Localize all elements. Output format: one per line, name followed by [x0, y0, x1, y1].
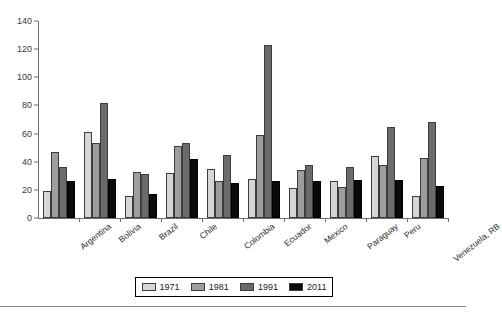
- bar[interactable]: [305, 165, 313, 218]
- bar-group: [325, 21, 366, 218]
- bar-group: [366, 21, 407, 218]
- bar[interactable]: [92, 143, 100, 218]
- bar[interactable]: [436, 186, 444, 218]
- bar[interactable]: [428, 122, 436, 218]
- bar[interactable]: [248, 179, 256, 218]
- chart-legend: 1971198119912011: [135, 277, 333, 297]
- bar[interactable]: [231, 183, 239, 218]
- legend-label: 2011: [307, 283, 326, 292]
- bar-group: [120, 21, 161, 218]
- bar[interactable]: [223, 155, 231, 218]
- bar[interactable]: [125, 196, 133, 219]
- x-axis-category-label: Chile: [198, 222, 219, 241]
- x-axis-category-label: Argentina: [79, 222, 113, 251]
- legend-label: 1981: [209, 283, 229, 292]
- x-axis-category-label: Ecuador: [283, 222, 313, 248]
- bar[interactable]: [100, 103, 108, 218]
- bar[interactable]: [108, 179, 116, 218]
- legend-swatch: [289, 283, 303, 291]
- bar-group: [38, 21, 79, 218]
- legend-item[interactable]: 1971: [142, 283, 180, 292]
- bar[interactable]: [264, 45, 272, 218]
- x-axis-tick-mark: [407, 218, 408, 222]
- bar[interactable]: [297, 170, 305, 218]
- x-axis-tick-mark: [325, 218, 326, 222]
- bar[interactable]: [84, 132, 92, 218]
- bar[interactable]: [133, 172, 141, 218]
- bar[interactable]: [346, 167, 354, 218]
- bar[interactable]: [149, 194, 157, 218]
- x-axis-tick-mark: [284, 218, 285, 222]
- bar[interactable]: [43, 191, 51, 218]
- bar[interactable]: [338, 187, 346, 218]
- bar[interactable]: [354, 180, 362, 218]
- legend-swatch: [191, 283, 205, 291]
- legend-label: 1991: [258, 283, 278, 292]
- bar[interactable]: [313, 181, 321, 218]
- bar[interactable]: [166, 173, 174, 218]
- bar[interactable]: [215, 181, 223, 218]
- legend-item[interactable]: 2011: [289, 283, 326, 292]
- bar[interactable]: [59, 167, 67, 218]
- legend-label: 1971: [160, 283, 180, 292]
- bar[interactable]: [256, 135, 264, 218]
- bar-group: [79, 21, 120, 218]
- x-axis-category-label: Peru: [403, 222, 422, 240]
- x-axis-tick-mark: [366, 218, 367, 222]
- bar[interactable]: [272, 181, 280, 218]
- bar-group: [243, 21, 284, 218]
- bar[interactable]: [379, 165, 387, 218]
- x-axis-category-label: Venezuela, RB: [452, 222, 502, 263]
- legend-swatch: [240, 283, 254, 291]
- x-axis-tick-mark: [79, 218, 80, 222]
- bar[interactable]: [330, 181, 338, 218]
- bar[interactable]: [371, 156, 379, 218]
- bar[interactable]: [395, 180, 403, 218]
- x-axis-category-label: Bolivia: [117, 222, 142, 244]
- x-axis-category-label: Brazil: [157, 222, 179, 242]
- bar[interactable]: [190, 159, 198, 218]
- x-axis-tick-mark: [448, 218, 449, 222]
- x-axis-tick-mark: [202, 218, 203, 222]
- bar-group: [284, 21, 325, 218]
- bar-group: [161, 21, 202, 218]
- bar-group: [407, 21, 448, 218]
- bar[interactable]: [420, 158, 428, 219]
- bar[interactable]: [412, 196, 420, 219]
- bar[interactable]: [67, 181, 75, 218]
- x-axis-tick-mark: [120, 218, 121, 222]
- bar[interactable]: [51, 152, 59, 218]
- bar[interactable]: [141, 174, 149, 218]
- x-axis-category-label: Colombia: [242, 222, 276, 251]
- x-axis-tick-mark: [243, 218, 244, 222]
- bar[interactable]: [182, 143, 190, 218]
- plot-area: 020406080100120140: [38, 21, 448, 218]
- page-bottom-rule: [0, 306, 466, 307]
- bar[interactable]: [387, 127, 395, 218]
- bar[interactable]: [174, 146, 182, 218]
- bar[interactable]: [289, 188, 297, 218]
- x-axis-tick-mark: [161, 218, 162, 222]
- bar-group: [202, 21, 243, 218]
- x-axis-category-label: Mexico: [323, 222, 349, 245]
- bar[interactable]: [207, 169, 215, 218]
- legend-swatch: [142, 283, 156, 291]
- legend-item[interactable]: 1981: [191, 283, 229, 292]
- x-axis-category-label: Paraguay: [366, 222, 400, 251]
- legend-item[interactable]: 1991: [240, 283, 278, 292]
